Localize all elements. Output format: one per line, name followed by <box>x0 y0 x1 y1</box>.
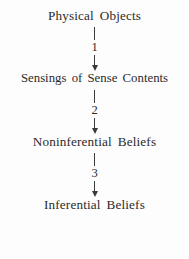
down-arrow-icon <box>90 118 99 134</box>
node-label-sensings-of-sense-contents: Sensings of Sense Contents <box>21 71 168 86</box>
node-label-noninferential-beliefs: Noninferential Beliefs <box>33 134 156 149</box>
down-arrow-icon <box>90 181 99 197</box>
flow-diagram: Physical Objects 1 Sensings of Sense Con… <box>0 0 189 259</box>
connector-number-3: 3 <box>91 167 97 180</box>
connector-number-1: 1 <box>91 41 97 54</box>
connector-stem <box>94 153 95 166</box>
arrow-head <box>92 65 98 71</box>
connector-3: 3 <box>90 149 99 197</box>
connector-number-2: 2 <box>91 104 97 117</box>
arrow-head <box>92 128 98 134</box>
connector-stem <box>94 27 95 40</box>
node-label-physical-objects: Physical Objects <box>48 8 141 23</box>
arrow-head <box>92 191 98 197</box>
connector-1: 1 <box>90 23 99 71</box>
down-arrow-icon <box>90 55 99 71</box>
connector-stem <box>94 90 95 103</box>
node-label-inferential-beliefs: Inferential Beliefs <box>44 197 145 212</box>
connector-2: 2 <box>90 86 99 134</box>
